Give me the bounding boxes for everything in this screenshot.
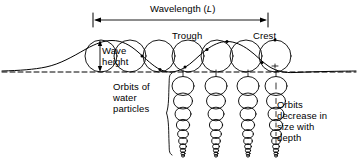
orbits-decrease-with-depth-label: Orbitsdecrease insize withdepth (277, 99, 327, 143)
depth-orbit-column (205, 77, 227, 158)
trough-label: Trough (172, 30, 202, 41)
orbits-decrease-line-4: depth (277, 132, 301, 143)
wave-orbit-diagram: Wavelength (L) Trough Crest Waveheight O… (0, 0, 358, 164)
wavelength-label-close: ) (212, 3, 215, 14)
crest-label: Crest (253, 30, 276, 41)
particle-dot (226, 40, 229, 43)
orbits-decrease-line-2: decrease in (277, 110, 327, 121)
wavelength-label: Wavelength (L) (150, 3, 215, 14)
wavelength-label-text: Wavelength ( (150, 3, 207, 14)
depth-orbit (275, 155, 278, 158)
particle-dot (206, 48, 209, 51)
wavelength-dimension (93, 13, 268, 27)
depth-orbit (182, 155, 185, 158)
wave-surface-curve (2, 41, 356, 73)
particle-dot (184, 66, 187, 69)
wave-height-line-2: height (102, 56, 128, 67)
surface-orbit-circle (230, 40, 262, 72)
orbits-water-line-1: Orbits of (113, 81, 150, 92)
column-guide-lines (183, 70, 276, 76)
orbits-brace (167, 73, 173, 155)
depth-orbit (215, 155, 218, 158)
depth-orbit (247, 155, 250, 158)
wave-height-label: Waveheight (102, 45, 128, 67)
orbits-of-water-particles-label: Orbits ofwaterparticles (113, 81, 150, 114)
surface-orbit-circle (201, 40, 233, 72)
wavelength-arrowhead-right (260, 18, 267, 23)
particle-dot (261, 61, 264, 64)
surface-orbit-circle (143, 40, 175, 72)
orbits-decrease-line-3: size with (277, 121, 314, 132)
particle-dot (159, 68, 162, 71)
wavelength-arrowhead-left (94, 18, 101, 23)
orbits-decrease-line-1: Orbits (277, 99, 303, 110)
wave-height-line-1: Wave (102, 45, 126, 56)
orbits-water-line-3: particles (113, 103, 149, 114)
depth-orbit-column (172, 77, 194, 158)
surface-orbit-centre-ticks (272, 64, 278, 68)
particle-dot (141, 55, 144, 58)
orbits-water-line-2: water (113, 92, 137, 103)
depth-orbit-column (237, 77, 259, 158)
